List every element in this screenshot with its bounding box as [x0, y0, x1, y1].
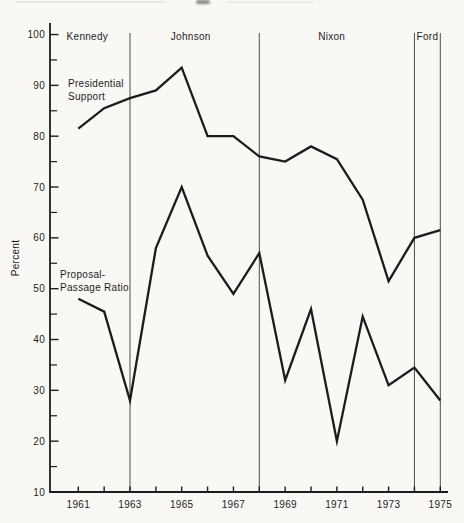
series-label-proposal-passage-ratio: Proposal-	[60, 269, 106, 280]
x-axis-tick-label: 1971	[325, 499, 349, 510]
y-axis-tick-label: 40	[33, 334, 45, 345]
y-axis-tick-label: 30	[33, 385, 45, 396]
x-axis-tick-label: 1973	[377, 499, 401, 510]
president-label-ford: Ford	[416, 31, 438, 42]
y-axis-tick-label: 20	[33, 436, 45, 447]
y-axis-tick-label: 100	[27, 29, 45, 40]
y-axis-tick-label: 70	[33, 182, 45, 193]
scanned-page: 1020304050607080901001961196319651967196…	[0, 0, 464, 523]
y-axis-tick-label: 60	[33, 232, 45, 243]
y-axis-tick-label: 50	[33, 283, 45, 294]
x-axis-tick-label: 1969	[273, 499, 297, 510]
y-axis-tick-label: 10	[33, 487, 45, 498]
x-axis-tick-label: 1961	[67, 499, 91, 510]
series-label-presidential-support: Presidential	[68, 78, 124, 89]
x-axis-tick-label: 1967	[222, 499, 246, 510]
y-axis-title: Percent	[10, 240, 21, 277]
y-axis-tick-label: 80	[33, 131, 45, 142]
series-label-presidential-support: Support	[68, 91, 105, 102]
x-axis-tick-label: 1975	[429, 499, 453, 510]
presidential-support-chart: 1020304050607080901001961196319651967196…	[0, 0, 464, 523]
president-label-nixon: Nixon	[318, 31, 345, 42]
series-label-proposal-passage-ratio: Passage Ratio	[60, 282, 129, 293]
x-axis-tick-label: 1963	[118, 499, 142, 510]
x-axis-tick-label: 1965	[170, 499, 194, 510]
y-axis-tick-label: 90	[33, 80, 45, 91]
president-label-johnson: Johnson	[171, 31, 211, 42]
president-label-kennedy: Kennedy	[67, 31, 109, 42]
